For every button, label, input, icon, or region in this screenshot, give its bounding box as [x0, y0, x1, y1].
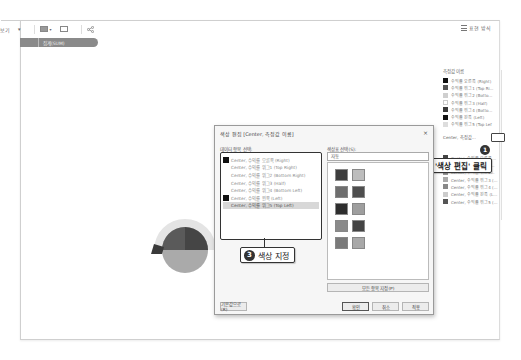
legend-items: 수익률 오른쪽 (Right)수익률 위그1 (Top Ri...수익률 위그2… — [443, 77, 499, 128]
palette-select[interactable]: 자동 — [327, 152, 429, 161]
data-item-row-label: Center, 수익률 위그2 (Bottom Right) — [231, 172, 305, 178]
image-button[interactable]: ▾ — [40, 26, 52, 32]
legend-item-label: 수익률 위그2 (Botto... — [451, 92, 492, 98]
legend-center-item-label: Center, 수익률 위그3 (... — [451, 177, 497, 183]
show-me-label: 표현 방식 — [469, 24, 491, 31]
palette-swatch[interactable] — [335, 237, 348, 249]
marks-pill[interactable]: 집계(SUM) — [20, 38, 98, 47]
view-dropdown[interactable]: ▾ — [18, 26, 21, 32]
data-item-list[interactable]: Center, 수익률 오른쪽 (Right)Center, 수익률 위그1 (… — [220, 152, 322, 240]
data-item-row[interactable]: Center, 수익률 오른쪽 (Right) — [223, 156, 319, 164]
legend-item-label: 수익률 왼쪽 (Left) — [451, 114, 484, 120]
reset-button[interactable]: 기본값으로(R) — [220, 302, 247, 311]
step-3-badge: 3 — [244, 250, 255, 261]
data-item-row[interactable]: Center, 수익률 위그3 (Half) — [223, 179, 319, 187]
pie-chart-graphic — [150, 214, 220, 284]
legend-item[interactable]: 수익률 위그2 (Botto... — [443, 92, 499, 99]
color-swatch-icon — [443, 85, 448, 90]
color-swatch-icon — [443, 107, 448, 112]
toolbar: 보기 ▾ ▾ — [0, 22, 102, 36]
data-item-row-label: Center, 수익률 위그3 (Half) — [231, 180, 286, 186]
color-swatch-icon — [443, 78, 448, 83]
present-button[interactable] — [60, 26, 68, 32]
image-icon — [40, 26, 48, 32]
callout-connector — [264, 238, 265, 247]
legend-menu-button[interactable] — [491, 133, 505, 142]
palette-swatch[interactable] — [335, 203, 348, 215]
legend-center-item[interactable]: Center, 수익률 위그3 (... — [443, 176, 499, 183]
data-item-row[interactable]: Center, 수익률 위그5 (Top Left) — [223, 202, 319, 210]
screen: 보기 ▾ ▾ 집계(SUM) 표현 방식 — [0, 0, 521, 360]
edit-colors-dialog: 색상 편집 [Center, 측정값 이름] × 데이터 항목 선택: 색상표 … — [214, 125, 434, 315]
color-swatch-icon — [443, 192, 448, 197]
show-me-button[interactable]: 표현 방식 — [461, 24, 491, 31]
assign-palette-button[interactable]: 모든 항목 지정(P) — [327, 283, 429, 292]
legend-item[interactable]: 수익률 왼쪽 (Left) — [443, 113, 499, 120]
data-item-row[interactable]: Center, 수익률 위그1 (Top Right) — [223, 164, 319, 172]
palette-swatch[interactable] — [352, 169, 365, 181]
ok-button[interactable]: 확인 — [342, 302, 369, 311]
legend-item-label: 수익률 위그5 (Top Lef — [451, 121, 492, 127]
close-icon[interactable]: × — [423, 129, 428, 136]
data-item-row[interactable]: Center, 수익률 위그2 (Bottom Right) — [223, 171, 319, 179]
step-3-callout: 3 색상 지정 — [240, 247, 295, 263]
toolbar-divider — [34, 25, 35, 34]
view-menu[interactable]: 보기 — [0, 26, 10, 33]
legend-item-label: 수익률 위그1 (Top Ri... — [451, 85, 493, 91]
palette-swatch[interactable] — [352, 203, 365, 215]
data-item-row-label: Center, 수익률 위그4 (Bottom Left) — [231, 187, 302, 193]
palette-swatch[interactable] — [352, 220, 365, 232]
marks-pill-label: 집계(SUM) — [43, 40, 65, 46]
legend-center-item-label: Center, 수익률 위그5 (... — [451, 199, 497, 205]
chevron-down-icon: ▾ — [18, 26, 21, 32]
data-item-row-label: Center, 수익률 위그5 (Top Left) — [231, 202, 294, 208]
legend-center-item[interactable]: Center, 수익률 위그4 (... — [443, 183, 499, 190]
legend-border — [501, 70, 502, 220]
legend-center-item-label: Center, 수익률 위그4 (... — [451, 184, 497, 190]
palette-grid — [335, 169, 365, 249]
color-swatch-icon — [443, 177, 448, 182]
legend-center-item[interactable]: Center, 수익률 위그5 (... — [443, 198, 499, 205]
legend-item-label: 수익률 위그4 (Botto... — [451, 107, 492, 113]
legend-center-item[interactable]: Center, 수익률 왼쪽 (L... — [443, 191, 499, 198]
share-button[interactable] — [87, 26, 94, 33]
color-swatch-icon — [223, 157, 229, 163]
step-1-badge: 1 — [480, 145, 490, 155]
data-item-row[interactable]: Center, 수익률 왼쪽 (Left) — [223, 194, 319, 202]
toolbar-divider — [81, 25, 82, 34]
color-swatch-icon — [443, 115, 448, 120]
legend-item[interactable]: 수익률 위그4 (Botto... — [443, 106, 499, 113]
apply-button[interactable]: 적용 — [402, 302, 429, 311]
legend-item[interactable]: 수익률 위그3 (Half) — [443, 99, 499, 106]
pill-divider — [38, 38, 39, 47]
dialog-title: 색상 편집 [Center, 측정값 이름] — [220, 130, 294, 137]
data-item-row-label: Center, 수익률 오른쪽 (Right) — [231, 157, 290, 163]
cancel-button[interactable]: 취소 — [372, 302, 399, 311]
legend-item[interactable]: 수익률 위그5 (Top Lef — [443, 121, 499, 128]
data-item-row[interactable]: Center, 수익률 위그4 (Bottom Left) — [223, 186, 319, 194]
legend-title: 측정값 이름 — [443, 68, 499, 74]
palette-swatch[interactable] — [335, 186, 348, 198]
color-swatch-icon — [443, 184, 448, 189]
palette-swatch[interactable] — [352, 237, 365, 249]
monitor-icon — [60, 26, 68, 32]
data-item-row-label: Center, 수익률 위그1 (Top Right) — [231, 164, 297, 170]
legend-center-header[interactable]: Center, 측정값... — [443, 132, 499, 142]
color-swatch-icon — [443, 122, 448, 127]
view-menu-label: 보기 — [0, 26, 10, 33]
step-3-text: 색상 지정 — [258, 250, 289, 261]
data-item-row-label: Center, 수익률 왼쪽 (Left) — [231, 195, 282, 201]
pie-chart[interactable] — [150, 214, 220, 284]
show-me-icon — [461, 25, 467, 31]
legend-item[interactable]: 수익률 오른쪽 (Right) — [443, 77, 499, 84]
legend-item-label: 수익률 오른쪽 (Right) — [451, 78, 491, 84]
palette-swatch[interactable] — [352, 186, 365, 198]
palette-swatch[interactable] — [335, 169, 348, 181]
legend-item[interactable]: 수익률 위그1 (Top Ri... — [443, 84, 499, 91]
legend-center-item-label: Center, 수익률 왼쪽 (L... — [451, 191, 497, 197]
color-swatch-icon — [443, 93, 448, 98]
color-swatch-icon — [443, 100, 448, 105]
legend-item-label: 수익률 위그3 (Half) — [451, 100, 487, 106]
color-legend: 측정값 이름 수익률 오른쪽 (Right)수익률 위그1 (Top Ri...… — [443, 68, 499, 212]
palette-swatch[interactable] — [335, 220, 348, 232]
